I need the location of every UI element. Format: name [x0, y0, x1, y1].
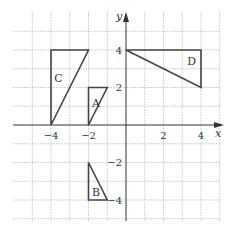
x-tick-label: −2: [81, 130, 96, 141]
y-tick-label: 2: [116, 82, 122, 93]
y-axis-arrow-icon: [123, 12, 129, 22]
triangle-c-label: C: [54, 72, 62, 85]
y-tick-label: 4: [116, 45, 122, 56]
y-tick-label: −2: [107, 157, 122, 168]
grid: [13, 12, 220, 221]
triangle-d-label: D: [187, 55, 196, 68]
y-axis-label: y: [115, 10, 123, 23]
triangle-a-label: A: [91, 97, 101, 110]
x-tick-label: 2: [160, 130, 166, 141]
x-tick-label: 4: [198, 130, 204, 141]
coordinate-grid-diagram: x y −4−22442−2−4 ABCD: [0, 0, 236, 236]
triangle-a: A: [89, 88, 108, 126]
x-tick-label: −4: [44, 130, 59, 141]
axes: x y: [13, 10, 224, 221]
y-tick-label: −4: [107, 195, 122, 206]
triangle-b-label: B: [92, 186, 100, 199]
x-axis-label: x: [215, 127, 222, 140]
